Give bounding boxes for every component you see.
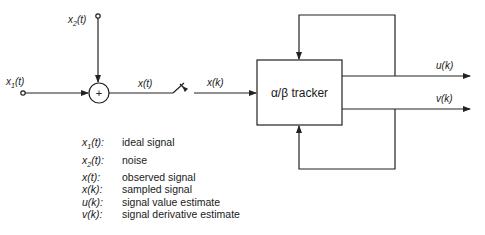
sampler-switch <box>173 83 184 93</box>
legend-item: x1(t): ideal signal <box>82 136 240 154</box>
plus-sign: + <box>96 87 102 99</box>
legend-item: x2(t): noise <box>82 154 240 172</box>
x1-label: x1(t) <box>6 76 24 89</box>
legend: x1(t): ideal signal x2(t): noise x(t): o… <box>82 136 240 221</box>
x2-terminal <box>96 14 100 18</box>
xt-label: x(t) <box>138 78 152 89</box>
legend-item: x(k): sampled signal <box>82 183 240 195</box>
x2-label: x2(t) <box>68 14 86 27</box>
xk-label: x(k) <box>207 77 224 88</box>
legend-item: u(k): signal value estimate <box>82 196 240 208</box>
legend-item: x(t): observed signal <box>82 171 240 183</box>
x1-terminal <box>21 91 25 95</box>
legend-item: v(k): signal derivative estimate <box>82 208 240 220</box>
block-diagram: + <box>0 0 485 235</box>
uk-label: u(k) <box>436 60 453 71</box>
vk-label: v(k) <box>436 93 453 104</box>
tracker-block-label: α/β tracker <box>257 60 342 125</box>
